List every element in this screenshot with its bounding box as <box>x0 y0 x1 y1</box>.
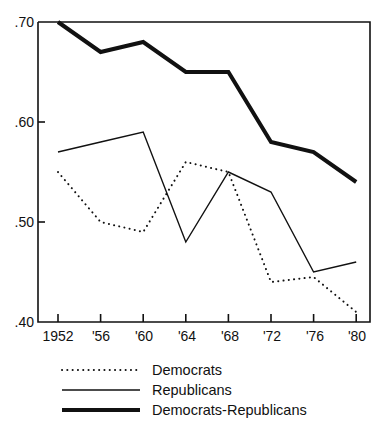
plot-frame <box>38 22 370 322</box>
x-tick-label: '68 <box>221 328 239 344</box>
legend-label-democrats: Democrats <box>152 362 222 378</box>
legend-label-democrats-republicans: Democrats-Republicans <box>152 402 307 418</box>
x-tick-label: '76 <box>306 328 324 344</box>
chart-legend: Democrats Republicans Democrats-Republic… <box>62 362 307 418</box>
axes-border <box>38 22 370 322</box>
y-tick-label: .50 <box>15 214 35 230</box>
x-axis-tick-labels: 1952 '56 '60 '64 '68 '72 '76 '80 <box>42 328 366 344</box>
line-chart: .70 .60 .50 .40 1952 '56 '60 '64 '68 '72… <box>0 0 386 425</box>
y-axis-ticks <box>38 122 45 222</box>
series-democrats-republicans <box>58 22 356 182</box>
y-tick-label: .40 <box>15 314 35 330</box>
y-axis-tick-labels: .70 .60 .50 .40 <box>15 14 35 330</box>
y-tick-label: .70 <box>15 14 35 30</box>
x-tick-label: '64 <box>178 328 196 344</box>
x-tick-label: '56 <box>92 328 110 344</box>
x-tick-label: '80 <box>348 328 366 344</box>
data-series-layer <box>58 22 356 312</box>
x-tick-label: '60 <box>135 328 153 344</box>
chart-figure: .70 .60 .50 .40 1952 '56 '60 '64 '68 '72… <box>0 0 386 425</box>
x-tick-label: 1952 <box>42 328 73 344</box>
series-democrats <box>58 162 356 312</box>
legend-label-republicans: Republicans <box>152 382 232 398</box>
legend-swatches <box>62 370 140 410</box>
y-tick-label: .60 <box>15 114 35 130</box>
x-tick-label: '72 <box>263 328 281 344</box>
x-axis-ticks <box>58 314 356 322</box>
